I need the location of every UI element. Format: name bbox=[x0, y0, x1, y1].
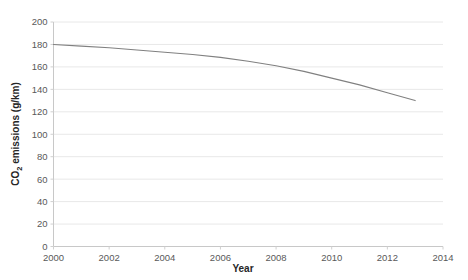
x-tick-label: 2000 bbox=[43, 252, 64, 263]
x-tick-label: 2010 bbox=[321, 252, 342, 263]
y-tick-label: 160 bbox=[32, 61, 48, 72]
x-tick-label: 2004 bbox=[154, 252, 175, 263]
y-tick-label: 140 bbox=[32, 84, 48, 95]
y-tick-label: 80 bbox=[37, 151, 48, 162]
y-tick-label: 180 bbox=[32, 39, 48, 50]
y-tick-label: 40 bbox=[37, 196, 48, 207]
chart-container: 020406080100120140160180200 200020022004… bbox=[0, 0, 468, 280]
y-tick-label: 100 bbox=[32, 129, 48, 140]
y-tick-label: 60 bbox=[37, 174, 48, 185]
line-chart: 020406080100120140160180200 200020022004… bbox=[0, 0, 468, 280]
y-tick-label: 120 bbox=[32, 106, 48, 117]
y-tick-label: 0 bbox=[42, 241, 47, 252]
x-tick-label: 2006 bbox=[210, 252, 231, 263]
y-tick-label: 200 bbox=[32, 16, 48, 27]
chart-background bbox=[0, 0, 468, 280]
x-tick-label: 2002 bbox=[99, 252, 120, 263]
x-tick-label: 2008 bbox=[266, 252, 287, 263]
x-axis-title: Year bbox=[232, 263, 253, 274]
x-tick-label: 2014 bbox=[432, 252, 453, 263]
y-tick-label: 20 bbox=[37, 218, 48, 229]
x-tick-label: 2012 bbox=[377, 252, 398, 263]
